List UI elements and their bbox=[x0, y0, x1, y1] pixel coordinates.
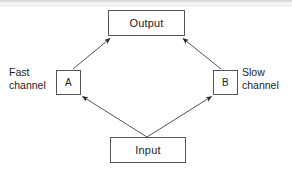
edge-input-to-b bbox=[147, 97, 212, 138]
node-output: Output bbox=[108, 10, 185, 36]
node-b: B bbox=[213, 70, 238, 95]
edge-input-to-a bbox=[83, 97, 148, 138]
edge-b-to-output bbox=[183, 39, 221, 70]
node-input: Input bbox=[110, 137, 186, 163]
edge-a-to-output bbox=[73, 39, 110, 70]
diagram-canvas: Output A B Input Fast channel Slow chann… bbox=[0, 0, 292, 169]
label-slow-channel: Slow channel bbox=[242, 66, 279, 92]
node-a: A bbox=[56, 70, 81, 95]
label-fast-channel: Fast channel bbox=[9, 66, 46, 92]
